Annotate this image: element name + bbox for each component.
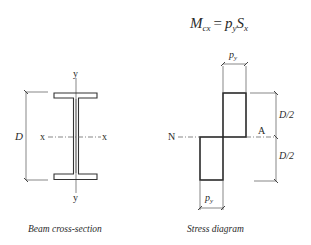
x-axis-label-right: x	[102, 131, 107, 142]
top-width-label: py	[228, 49, 238, 62]
y-axis-label-top: y	[73, 68, 78, 79]
x-axis-label-left: x	[40, 131, 45, 142]
beam-cross-section: y y x x D Beam cross-section	[14, 68, 107, 234]
beam-caption: Beam cross-section	[28, 224, 102, 234]
i-beam-section	[54, 93, 97, 180]
lower-stress-block	[200, 137, 223, 180]
neutral-axis-label-n: N	[168, 131, 175, 142]
bottom-width-label: py	[204, 192, 214, 205]
lower-depth-label: D/2	[278, 150, 294, 161]
stress-diagram: py N A D/2 D/2 py Stress diagram	[168, 49, 294, 234]
upper-depth-label: D/2	[278, 109, 294, 120]
formula: Mcx=pySx	[189, 15, 248, 33]
y-axis-label-bottom: y	[73, 192, 78, 203]
stress-caption: Stress diagram	[187, 224, 244, 234]
diagram-canvas: Mcx=pySx y y x x D Beam cross-section py	[0, 0, 311, 245]
upper-stress-block	[223, 93, 246, 137]
depth-label: D	[14, 130, 23, 142]
neutral-axis-label-a: A	[258, 125, 266, 136]
